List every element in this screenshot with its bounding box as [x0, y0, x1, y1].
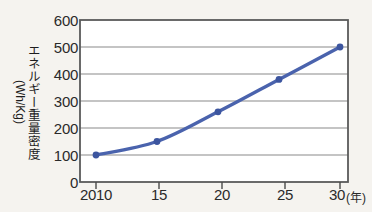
- data-point-20: [215, 108, 222, 115]
- data-point-2010: [93, 152, 100, 159]
- data-point-15: [154, 138, 161, 145]
- x-axis-unit-label: (年): [346, 188, 366, 205]
- data-point-25: [276, 76, 283, 83]
- chart-container: エネルギー重量密度 (Wh/Kg) 600 500 400 300 200 10…: [0, 0, 372, 212]
- x-tick-label-2010: 2010: [80, 186, 112, 203]
- data-point-30: [337, 44, 344, 51]
- x-tick-label-2015: 15: [151, 186, 167, 203]
- x-tick-label-2020: 20: [214, 186, 230, 203]
- x-tick-label-2025: 25: [277, 186, 293, 203]
- x-tick-label-2030: 30: [329, 186, 345, 203]
- plot-svg: [0, 0, 372, 212]
